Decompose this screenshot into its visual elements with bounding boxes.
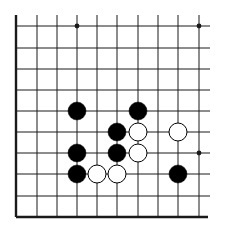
- star-point-icon: [197, 151, 202, 156]
- black-stone: [68, 165, 86, 183]
- white-stone: [129, 123, 147, 141]
- black-stone: [108, 144, 126, 162]
- white-stone: [129, 144, 147, 162]
- white-stone: [88, 165, 106, 183]
- white-stone: [108, 165, 126, 183]
- star-point-icon: [197, 24, 202, 29]
- black-stone: [68, 102, 86, 120]
- black-stone: [169, 165, 187, 183]
- stones: [68, 102, 187, 183]
- go-board: [0, 0, 227, 236]
- black-stone: [108, 123, 126, 141]
- star-point-icon: [75, 24, 80, 29]
- black-stone: [129, 102, 147, 120]
- white-stone: [169, 123, 187, 141]
- black-stone: [68, 144, 86, 162]
- grid-lines: [16, 15, 210, 217]
